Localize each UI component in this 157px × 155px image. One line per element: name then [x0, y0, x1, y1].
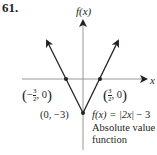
caption-line-1: Absolute value [92, 123, 155, 134]
equation-label: f(x) = |2x| − 3 [92, 110, 150, 121]
caption-line-2: function [92, 135, 127, 146]
point-vertex [81, 111, 85, 115]
right-intercept-label: (32, 0) [103, 88, 127, 103]
y-axis-label: f(x) [76, 6, 91, 17]
x-axis-label: x [150, 75, 155, 86]
left-intercept-label: (−32, 0) [22, 88, 52, 103]
vertex-label: (0, −3) [40, 110, 69, 121]
curve-left-branch [47, 41, 83, 113]
point-left-intercept [64, 77, 68, 81]
graph-figure: 61. f(x) x (−32, 0) (32, 0) (0, −3) f(x)… [0, 0, 157, 155]
point-right-intercept [98, 77, 102, 81]
problem-number: 61. [2, 1, 18, 14]
